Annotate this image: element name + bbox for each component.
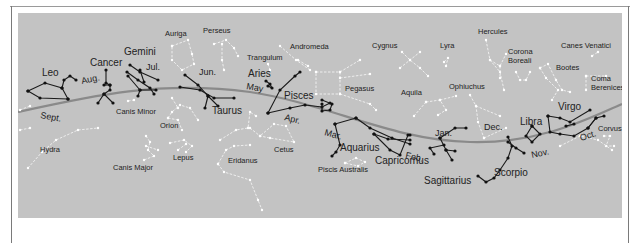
label-pisces: Pisces bbox=[284, 90, 313, 101]
month-label-jul: Jul. bbox=[146, 62, 160, 72]
month-label-sept: Sept. bbox=[40, 110, 62, 123]
constellation-lepus bbox=[169, 139, 193, 153]
label-hercules: Hercules bbox=[478, 27, 508, 36]
label-andromeda: Andromeda bbox=[290, 42, 330, 51]
label-coma-berenices: Berenices bbox=[591, 83, 625, 92]
constellation-canis-major bbox=[143, 135, 159, 161]
label-coma-berenices: Coma bbox=[591, 74, 612, 83]
month-label-aug: Aug. bbox=[80, 72, 100, 86]
label-corona-boreali: Corona bbox=[508, 47, 533, 56]
label-orion: Orion bbox=[160, 121, 178, 130]
label-cetus: Cetus bbox=[274, 145, 294, 154]
label-auriga: Auriga bbox=[165, 29, 188, 38]
zodiac-cancer bbox=[96, 68, 114, 104]
constellation-corona-boreali bbox=[515, 71, 531, 81]
constellation-labels: LeoCancerGeminiTaurusAriesPiscesAquarius… bbox=[40, 26, 625, 186]
label-aquila: Aquila bbox=[401, 88, 423, 97]
label-lyra: Lyra bbox=[440, 41, 455, 50]
label-hydra: Hydra bbox=[40, 145, 61, 154]
star-chart: LeoCancerGeminiTaurusAriesPiscesAquarius… bbox=[0, 0, 636, 243]
constellation-lyra bbox=[443, 57, 449, 67]
label-gemini: Gemini bbox=[124, 46, 156, 57]
label-perseus: Perseus bbox=[203, 26, 231, 35]
label-canes-venatici: Canes Venatici bbox=[561, 41, 611, 50]
month-label-apr: Apr. bbox=[284, 112, 302, 126]
label-cygnus: Cygnus bbox=[372, 41, 398, 50]
label-taurus: Taurus bbox=[212, 105, 242, 116]
zodiac-leo bbox=[26, 74, 77, 100]
label-pegasus: Pegasus bbox=[345, 84, 374, 93]
month-label-jun: Jun. bbox=[199, 67, 216, 77]
label-canis-minor: Canis Minor bbox=[116, 107, 157, 116]
label-corvus: Corvus bbox=[598, 124, 622, 133]
month-label-nov: Nov. bbox=[530, 146, 550, 159]
constellation-canis-minor bbox=[127, 99, 135, 102]
constellation-auriga bbox=[171, 39, 195, 71]
label-cancer: Cancer bbox=[90, 57, 123, 68]
constellation-aquila bbox=[413, 95, 457, 117]
month-label-oct: Oct. bbox=[579, 128, 598, 143]
constellation-hercules bbox=[485, 39, 507, 91]
label-sagittarius: Sagittarius bbox=[424, 175, 471, 186]
constellation-ophiuchus bbox=[469, 94, 507, 139]
label-scorpio: Scorpio bbox=[494, 167, 528, 178]
month-label-mar: Mar. bbox=[323, 127, 343, 141]
label-aquarius: Aquarius bbox=[340, 142, 379, 153]
zodiac-libra bbox=[524, 124, 541, 143]
constellation-corvus bbox=[603, 135, 615, 147]
label-bootes: Bootes bbox=[556, 63, 580, 72]
ecliptic-line bbox=[18, 88, 622, 142]
label-virgo: Virgo bbox=[558, 101, 582, 112]
constellation-canes-venatici bbox=[591, 51, 599, 57]
month-label-jan: Jan. bbox=[435, 128, 452, 138]
label-piscis-australis: Piscis Australis bbox=[318, 165, 368, 174]
label-ophiuchus: Ophiuchus bbox=[449, 82, 485, 91]
label-lepus: Lepus bbox=[173, 153, 194, 162]
constellation-cetus bbox=[249, 123, 295, 143]
label-corona-boreali: Boreali bbox=[508, 56, 532, 65]
label-leo: Leo bbox=[42, 67, 59, 78]
month-label-dec: Dec. bbox=[484, 122, 503, 132]
zodiac-aries bbox=[264, 79, 273, 89]
label-aries: Aries bbox=[248, 68, 271, 79]
label-trangulum: Trangulum bbox=[247, 53, 283, 62]
label-eridanus: Eridanus bbox=[228, 156, 258, 165]
label-canis-major: Canis Major bbox=[113, 163, 154, 172]
constellation-cygnus bbox=[399, 51, 429, 77]
constellation-perseus bbox=[213, 39, 239, 71]
label-libra: Libra bbox=[520, 116, 543, 127]
